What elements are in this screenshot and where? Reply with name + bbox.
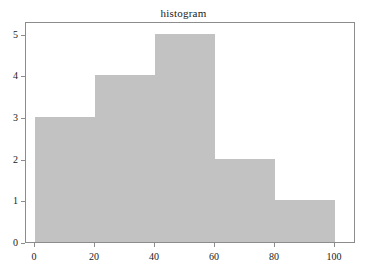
y-tick-mark: [21, 201, 25, 202]
y-tick-mark: [21, 160, 25, 161]
histogram-figure: histogram 020406080100 012345: [0, 0, 367, 276]
x-tick-mark: [154, 243, 155, 247]
x-tick-label: 0: [14, 251, 54, 263]
histogram-bar: [155, 34, 215, 242]
x-tick-label: 80: [254, 251, 294, 263]
histogram-bar: [35, 117, 95, 242]
y-tick-mark: [21, 118, 25, 119]
plot-frame: [25, 22, 355, 243]
x-tick-label: 20: [74, 251, 114, 263]
plot-area: [26, 23, 354, 242]
x-tick-mark: [214, 243, 215, 247]
histogram-bar: [275, 200, 335, 242]
x-tick-label: 100: [314, 251, 354, 263]
histogram-bar: [215, 159, 275, 242]
y-tick-label: 0: [0, 237, 18, 249]
y-tick-mark: [21, 243, 25, 244]
chart-title: histogram: [0, 7, 367, 20]
x-tick-label: 40: [134, 251, 174, 263]
x-tick-mark: [334, 243, 335, 247]
x-tick-mark: [274, 243, 275, 247]
y-tick-label: 4: [0, 70, 18, 82]
x-tick-mark: [34, 243, 35, 247]
x-tick-label: 60: [194, 251, 234, 263]
y-tick-label: 2: [0, 154, 18, 166]
y-tick-mark: [21, 35, 25, 36]
histogram-bar: [95, 75, 155, 242]
y-tick-label: 5: [0, 29, 18, 41]
x-tick-mark: [94, 243, 95, 247]
y-tick-label: 3: [0, 112, 18, 124]
y-tick-mark: [21, 76, 25, 77]
y-tick-label: 1: [0, 195, 18, 207]
